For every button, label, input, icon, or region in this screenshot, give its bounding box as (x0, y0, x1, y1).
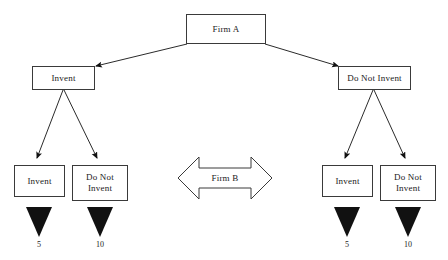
leaf-right-do-not-invent[interactable]: Do Not Invent (380, 165, 436, 201)
edge-root-to-right (265, 44, 338, 66)
node-root-firm-a[interactable]: Firm A (186, 14, 266, 44)
leaf-right-do-not-invent-label: Do Not Invent (381, 172, 435, 194)
edge-root-to-left (96, 44, 187, 66)
game-tree-diagram: Firm A Invent Do Not Invent Invent Do No… (0, 0, 448, 260)
node-root-label: Firm A (213, 24, 240, 35)
node-right-label: Do Not Invent (347, 73, 402, 84)
payoff-triangle-right-do-not-invent (395, 207, 421, 237)
firm-b-label: Firm B (190, 173, 260, 183)
payoff-right-invent: 5 (332, 240, 362, 249)
payoff-right-do-not-invent: 10 (393, 240, 423, 249)
edge-right-to-invent (345, 90, 373, 158)
edge-left-to-do-not-invent (64, 90, 97, 158)
payoff-triangle-right-invent (334, 207, 360, 237)
node-left-label: Invent (51, 73, 75, 84)
leaf-left-invent[interactable]: Invent (14, 165, 65, 197)
edge-left-to-invent (37, 90, 63, 158)
leaf-left-invent-label: Invent (27, 176, 51, 187)
node-left-invent[interactable]: Invent (32, 66, 95, 90)
leaf-right-invent-label: Invent (335, 176, 359, 187)
payoff-left-do-not-invent: 10 (85, 240, 115, 249)
node-right-do-not-invent[interactable]: Do Not Invent (338, 66, 411, 90)
payoff-left-invent: 5 (24, 240, 54, 249)
leaf-left-do-not-invent[interactable]: Do Not Invent (72, 165, 128, 201)
payoff-triangle-left-invent (26, 207, 52, 237)
edge-right-to-do-not-invent (374, 90, 405, 158)
payoff-triangle-left-do-not-invent (87, 207, 113, 237)
leaf-left-do-not-invent-label: Do Not Invent (73, 172, 127, 194)
leaf-right-invent[interactable]: Invent (322, 165, 373, 197)
